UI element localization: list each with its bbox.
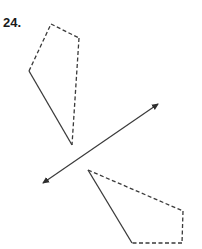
image-edge-dashed xyxy=(88,170,183,211)
original-quadrilateral xyxy=(29,24,79,145)
mirror-line xyxy=(43,104,158,183)
original-edge-dashed xyxy=(72,38,79,145)
reflected-quadrilateral xyxy=(88,170,183,243)
image-edge-solid xyxy=(88,170,132,243)
original-edge-dashed xyxy=(51,24,79,38)
problem-figure: 24. xyxy=(0,0,202,249)
image-edge-dashed xyxy=(182,211,183,243)
original-edge-solid xyxy=(29,71,72,145)
original-edge-dashed xyxy=(29,24,51,71)
mirror-line-segment xyxy=(43,104,158,183)
reflection-diagram xyxy=(0,0,202,249)
